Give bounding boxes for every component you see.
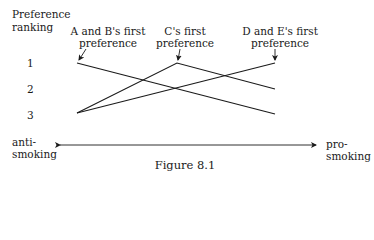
x-axis-right-line2: smoking [326,150,371,162]
x-axis-left-line1: anti- [12,136,36,148]
x-axis-right-line1: pro- [326,138,348,150]
x-axis-left-line2: smoking [12,148,57,160]
pointer-c-icon [178,49,180,60]
annotation-pointers [79,49,275,60]
pointer-a-b-icon [79,49,86,60]
figure-caption: Figure 8.1 [135,158,235,172]
